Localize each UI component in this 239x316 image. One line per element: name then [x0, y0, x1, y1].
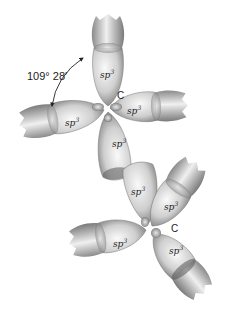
carbon-label-lower: C — [171, 223, 178, 234]
bond-angle-label: 109° 28′ — [27, 70, 67, 82]
small-back-lobe — [141, 217, 149, 227]
bond-angle-arrow — [52, 58, 83, 106]
ethane-orbital-diagram: 109° 28′ C C sp3 sp3 sp3 sp3 sp3 sp3 sp3… — [0, 0, 239, 316]
small-back-lobe — [92, 103, 104, 111]
lower-carbon-group — [66, 153, 216, 305]
small-back-lobe — [110, 103, 122, 111]
orbital-lobe-lower-left — [66, 214, 149, 260]
small-back-lobe — [104, 114, 112, 122]
carbon-label-upper: C — [117, 90, 124, 101]
orbital-lobe-upper-left — [16, 94, 106, 141]
upper-carbon-group — [16, 14, 188, 182]
small-back-lobe — [151, 228, 161, 238]
